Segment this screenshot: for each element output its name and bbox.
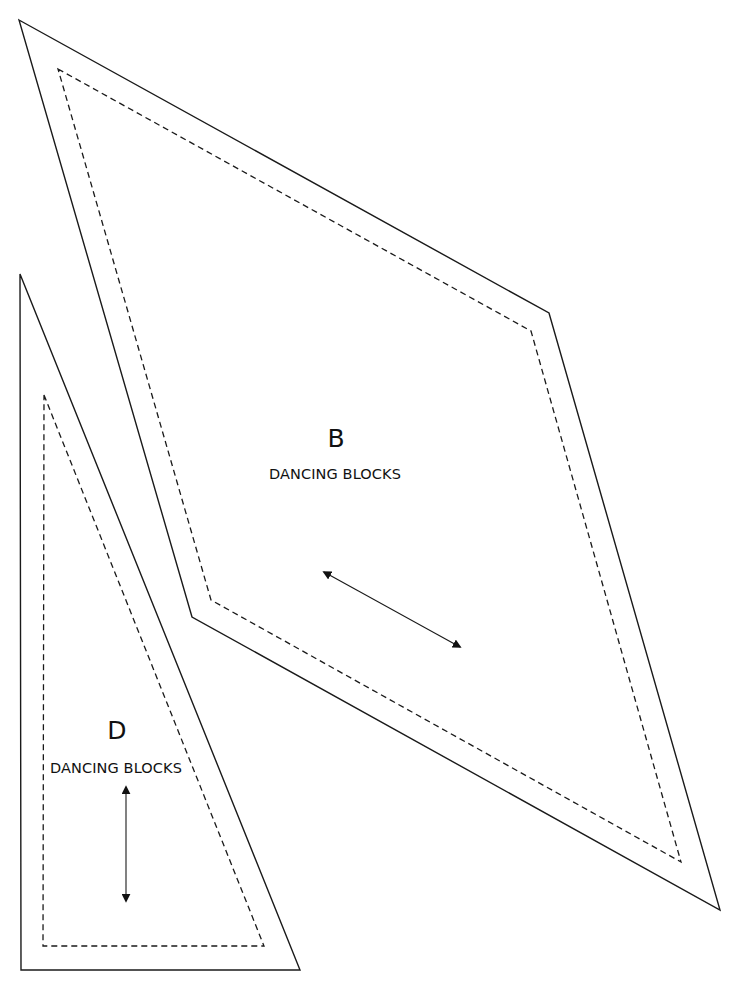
piece-b-cutting-line (19, 20, 720, 910)
piece-d-name: DANCING BLOCKS (50, 761, 182, 776)
piece-b-grain-arrow-icon (324, 572, 460, 647)
piece-d (20, 274, 300, 970)
piece-d-cutting-line (20, 274, 300, 970)
piece-b (19, 20, 720, 910)
piece-d-letter: D (107, 718, 126, 743)
piece-d-seam-line (43, 395, 264, 946)
pattern-sheet (0, 0, 730, 992)
piece-b-name: DANCING BLOCKS (269, 467, 401, 482)
piece-b-letter: B (327, 426, 344, 451)
